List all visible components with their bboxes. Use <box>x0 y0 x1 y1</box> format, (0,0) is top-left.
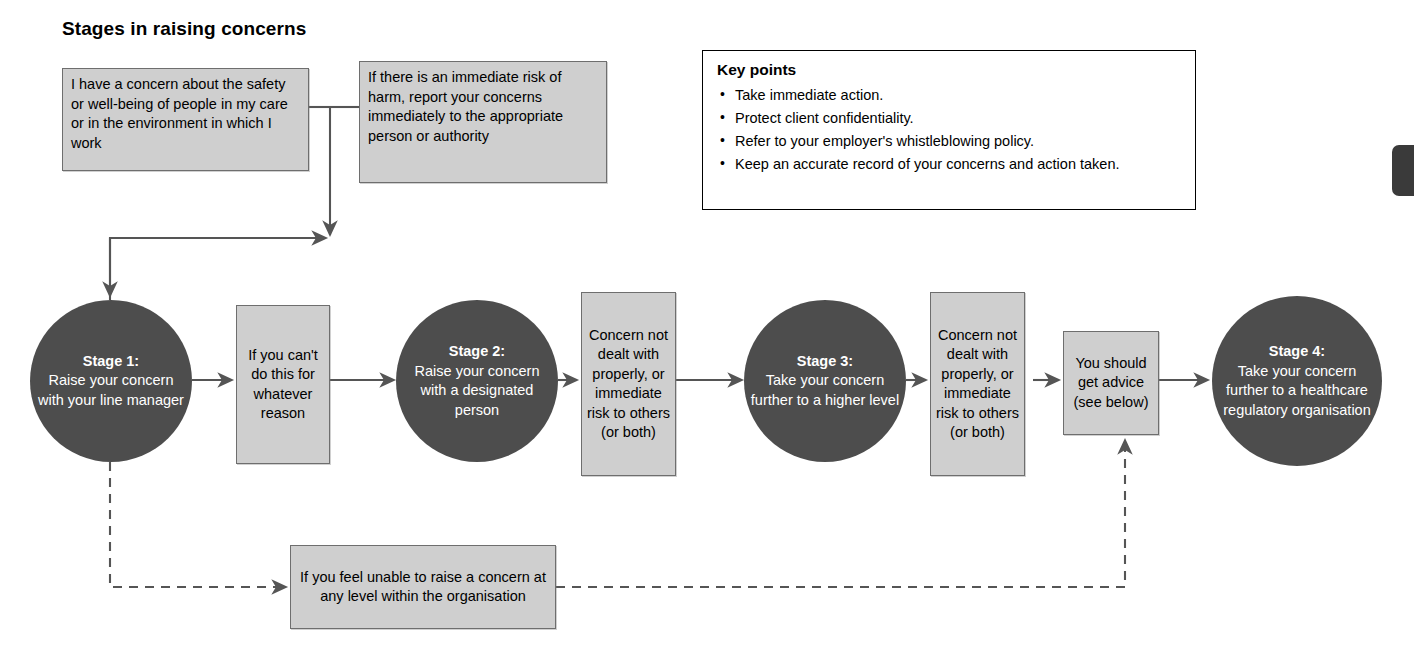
key-point-item: Take immediate action. <box>717 84 1181 107</box>
box-concern: I have a concern about the safety or wel… <box>62 68 309 171</box>
stage-3-label: Stage 3: <box>750 352 899 372</box>
key-points-panel: Key points Take immediate action. Protec… <box>702 50 1196 210</box>
key-points-heading: Key points <box>717 61 1181 79</box>
stage-4-circle: Stage 4: Take your concern further to a … <box>1212 296 1382 466</box>
box-concern-not-dealt-1: Concern not dealt with properly, or imme… <box>581 292 676 476</box>
box-unable-to-raise: If you feel unable to raise a concern at… <box>290 545 556 629</box>
key-point-item: Refer to your employer's whistleblowing … <box>717 130 1181 153</box>
connector-elbow-right <box>110 238 326 300</box>
page-edge-tab <box>1392 145 1414 196</box>
key-point-item: Keep an accurate record of your concerns… <box>717 153 1181 176</box>
stage-3-text: Take your concern further to a higher le… <box>751 372 899 408</box>
box-cannot-do-this: If you can't do this for whatever reason <box>236 305 330 464</box>
stage-4-text: Take your concern further to a healthcar… <box>1223 363 1371 418</box>
stage-4-label: Stage 4: <box>1219 342 1375 362</box>
stage-2-text: Raise your concern with a designated per… <box>415 363 540 418</box>
key-points-list: Take immediate action. Protect client co… <box>717 84 1181 176</box>
stage-3-circle: Stage 3: Take your concern further to a … <box>744 300 906 462</box>
box-get-advice: You should get advice (see below) <box>1063 331 1159 435</box>
box-concern-not-dealt-2: Concern not dealt with properly, or imme… <box>930 292 1025 476</box>
diagram-canvas: Stages in raising concerns <box>0 0 1414 669</box>
page-title: Stages in raising concerns <box>62 18 306 40</box>
stage-1-circle: Stage 1: Raise your concern with your li… <box>30 300 192 462</box>
dashed-stage1-to-unable <box>110 462 286 587</box>
stage-1-label: Stage 1: <box>36 352 185 372</box>
key-point-item: Protect client confidentiality. <box>717 107 1181 130</box>
stage-1-text: Raise your concern with your line manage… <box>38 372 184 408</box>
stage-2-circle: Stage 2: Raise your concern with a desig… <box>396 300 558 462</box>
stage-2-label: Stage 2: <box>402 342 551 362</box>
box-immediate-risk: If there is an immediate risk of harm, r… <box>359 61 607 183</box>
